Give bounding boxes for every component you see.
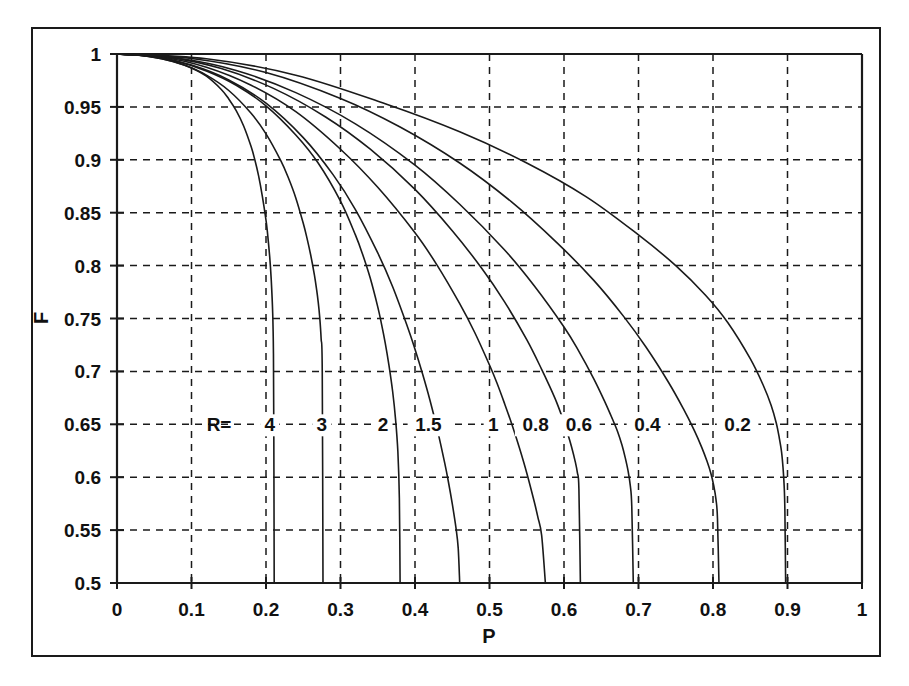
curve-label-R-0.2: 0.2 [724,414,750,435]
x-tick-label: 1 [857,599,868,620]
y-tick-label: 0.9 [75,150,101,171]
x-tick-label: 0 [112,599,123,620]
x-tick-label: 0.3 [327,599,353,620]
x-tick-label: 0.9 [774,599,800,620]
y-tick-label: 0.6 [75,467,101,488]
x-tick-label: 0.2 [253,599,279,620]
curve-label-R-2: 2 [378,414,389,435]
y-tick-label: 0.75 [64,309,101,330]
x-axis-tick-labels: 00.10.20.30.40.50.60.70.80.91 [112,599,868,620]
y-tick-label: 0.7 [75,361,101,382]
x-axis-title: P [482,625,495,647]
y-tick-label: 1 [90,44,101,65]
y-tick-label: 0.65 [64,414,101,435]
x-tick-label: 0.4 [402,599,429,620]
curve-label-R-3: 3 [317,414,328,435]
curve-label-R-1.5: 1.5 [415,414,442,435]
x-tick-label: 0.6 [551,599,577,620]
y-tick-label: 0.5 [75,573,102,594]
y-axis-tick-labels: 0.50.550.60.650.70.750.80.850.90.951 [64,44,101,594]
x-tick-label: 0.8 [700,599,726,620]
y-tick-label: 0.55 [64,520,101,541]
x-tick-label: 0.1 [178,599,205,620]
curve-label-R-0.8: 0.8 [522,414,548,435]
curve-label-prefix: R= [207,414,232,435]
x-tick-label: 0.5 [476,599,503,620]
chart-canvas: 00.10.20.30.40.50.60.70.80.91 0.50.550.6… [0,0,909,686]
y-tick-label: 0.8 [75,256,101,277]
curve-label-R-0.6: 0.6 [566,414,592,435]
y-tick-label: 0.85 [64,203,101,224]
y-tick-label: 0.95 [64,97,101,118]
curve-label-R-4: 4 [264,414,275,435]
curve-label-R-0.4: 0.4 [634,414,661,435]
figure-root: 00.10.20.30.40.50.60.70.80.91 0.50.550.6… [0,0,909,686]
x-tick-label: 0.7 [625,599,651,620]
curve-label-R-1: 1 [488,414,499,435]
y-axis-title: F [30,312,52,324]
